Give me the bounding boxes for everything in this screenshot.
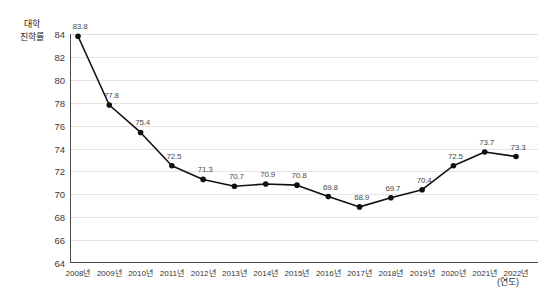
- data-point-marker: [451, 163, 457, 169]
- data-point-marker: [294, 182, 300, 188]
- data-point-label: 73.3: [511, 143, 526, 152]
- data-point-label: 70.4: [417, 176, 432, 185]
- y-tick-label: 70: [54, 189, 65, 200]
- data-point-label: 77.8: [104, 91, 119, 100]
- data-point-label: 72.5: [448, 152, 463, 161]
- data-point-marker: [169, 163, 175, 169]
- data-point-marker: [106, 102, 112, 108]
- y-tick-label: 82: [54, 51, 65, 62]
- x-tick-label: 2012년: [191, 267, 216, 278]
- x-tick-label: 2016년: [316, 267, 341, 278]
- x-tick-label: 2020년: [441, 267, 466, 278]
- y-tick-label: 74: [54, 143, 65, 154]
- y-tick-label: 64: [54, 258, 65, 269]
- data-point-label: 69.7: [385, 184, 400, 193]
- y-tick-label: 80: [54, 74, 65, 85]
- line-chart: 대학 진학률 6466687072747678808284 2008년2009년…: [0, 0, 559, 299]
- data-point-label: 68.9: [354, 193, 369, 202]
- y-tick-label: 76: [54, 120, 65, 131]
- data-series: [70, 34, 538, 263]
- x-tick-label: 2021년: [472, 267, 497, 278]
- data-point-marker: [388, 195, 394, 201]
- y-tick-label: 66: [54, 235, 65, 246]
- data-point-label: 70.7: [229, 172, 244, 181]
- data-point-marker: [263, 181, 269, 187]
- data-point-marker: [200, 177, 206, 183]
- y-tick-label: 84: [54, 29, 65, 40]
- x-tick-label: 2019년: [410, 267, 435, 278]
- data-point-label: 83.8: [73, 22, 88, 31]
- x-tick-label: 2015년: [285, 267, 310, 278]
- data-point-marker: [419, 187, 425, 193]
- data-point-marker: [138, 130, 144, 136]
- y-tick-label: 78: [54, 97, 65, 108]
- y-axis-title-line-1: 대학: [8, 18, 56, 31]
- data-point-label: 70.9: [260, 170, 275, 179]
- data-point-label: 73.7: [479, 138, 494, 147]
- x-tick-label: 2018년: [378, 267, 403, 278]
- data-point-marker: [325, 194, 331, 200]
- x-tick-label: 2009년: [97, 267, 122, 278]
- data-point-label: 71.3: [198, 165, 213, 174]
- data-point-marker: [513, 154, 519, 160]
- x-axis-unit-label: (연도): [497, 275, 519, 288]
- x-tick-label: 2010년: [128, 267, 153, 278]
- data-point-label: 72.5: [166, 152, 181, 161]
- x-tick-label: 2014년: [253, 267, 278, 278]
- data-point-marker: [357, 204, 363, 210]
- y-axis-title: 대학 진학률: [8, 18, 56, 44]
- plot-area: 6466687072747678808284 2008년2009년2010년20…: [70, 34, 538, 263]
- x-tick-label: 2013년: [222, 267, 247, 278]
- data-point-marker: [232, 183, 238, 189]
- x-tick-label: 2017년: [347, 267, 372, 278]
- y-axis-title-line-2: 진학률: [8, 31, 56, 44]
- y-tick-label: 72: [54, 166, 65, 177]
- data-point-label: 70.8: [292, 171, 307, 180]
- data-point-marker: [482, 149, 488, 155]
- x-tick-label: 2011년: [160, 267, 184, 278]
- y-tick-label: 68: [54, 212, 65, 223]
- data-point-label: 69.8: [323, 183, 338, 192]
- data-point-marker: [75, 33, 81, 39]
- x-tick-label: 2008년: [66, 267, 91, 278]
- data-point-label: 75.4: [135, 118, 150, 127]
